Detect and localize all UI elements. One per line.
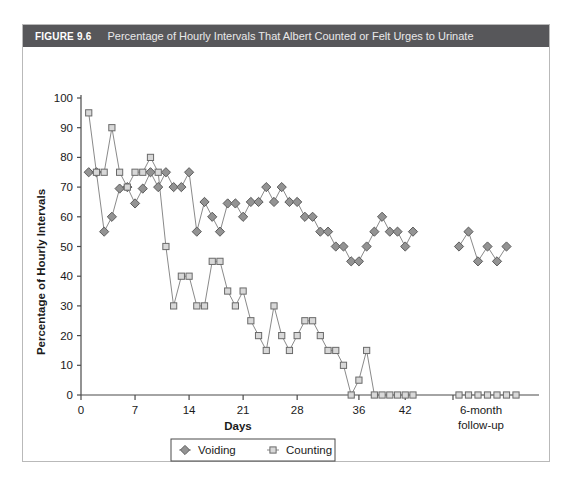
figure-caption-label: Percentage of Hourly Intervals That Albe… xyxy=(107,30,473,42)
counting-data-point xyxy=(270,447,276,453)
voiding-data-point xyxy=(393,227,402,236)
y-tick-label: 40 xyxy=(60,270,73,282)
counting-data-point xyxy=(302,318,308,324)
counting-data-point xyxy=(325,347,331,353)
figure-header-bar: FIGURE 9.6 Percentage of Hourly Interval… xyxy=(23,25,549,47)
y-tick-label: 90 xyxy=(60,122,73,134)
voiding-data-point xyxy=(370,227,379,236)
counting-data-point xyxy=(155,169,161,175)
voiding-data-point xyxy=(200,197,209,206)
counting-data-point xyxy=(201,303,207,309)
x-tick-label: 14 xyxy=(183,404,196,416)
x-tick-label: 7 xyxy=(132,404,138,416)
voiding-data-point xyxy=(138,184,147,193)
x-tick-label: 21 xyxy=(237,404,250,416)
counting-data-point xyxy=(263,347,269,353)
counting-data-point xyxy=(317,333,323,339)
voiding-data-point xyxy=(208,212,217,221)
x-tick-label: 36 xyxy=(353,404,366,416)
chart-legend: VoidingCounting xyxy=(171,439,335,461)
counting-data-point xyxy=(364,347,370,353)
y-tick-label: 30 xyxy=(60,300,73,312)
legend-label: Counting xyxy=(286,444,332,456)
counting-data-point xyxy=(402,392,408,398)
voiding-data-point xyxy=(107,212,116,221)
counting-data-point xyxy=(248,318,254,324)
x-axis-title: Days xyxy=(224,420,252,432)
counting-data-point xyxy=(410,392,416,398)
counting-data-point xyxy=(194,303,200,309)
counting-data-point xyxy=(163,243,169,249)
counting-data-point xyxy=(240,288,246,294)
counting-data-point xyxy=(86,110,92,116)
counting-data-point xyxy=(286,347,292,353)
counting-data-point xyxy=(356,377,362,383)
voiding-data-point xyxy=(239,212,248,221)
counting-data-point xyxy=(232,303,238,309)
voiding-data-point xyxy=(269,197,278,206)
counting-data-point xyxy=(209,258,215,264)
x-tick-label: 0 xyxy=(78,404,84,416)
y-tick-label: 100 xyxy=(54,92,73,104)
y-axis-title: Percentage of Hourly Intervals xyxy=(35,189,47,355)
y-tick-label: 70 xyxy=(60,181,73,193)
voiding-data-point xyxy=(231,199,240,208)
counting-data-point xyxy=(225,288,231,294)
voiding-data-point xyxy=(192,227,201,236)
voiding-data-point xyxy=(146,168,155,177)
voiding-data-point xyxy=(293,197,302,206)
counting-data-point xyxy=(271,303,277,309)
counting-data-point xyxy=(279,333,285,339)
counting-data-point xyxy=(294,333,300,339)
counting-data-point xyxy=(186,273,192,279)
voiding-data-point xyxy=(177,183,186,192)
line-chart-svg: Percentage of Hourly Intervals Days 0102… xyxy=(23,47,549,462)
y-tick-label: 0 xyxy=(67,389,73,401)
y-tick-label: 60 xyxy=(60,211,73,223)
counting-data-point xyxy=(117,169,123,175)
voiding-data-point xyxy=(262,183,271,192)
voiding-data-point xyxy=(154,183,163,192)
counting-data-point xyxy=(340,362,346,368)
counting-data-point xyxy=(132,169,138,175)
y-axis-ticks: 0102030405060708090100 xyxy=(54,92,81,401)
voiding-data-point xyxy=(277,183,286,192)
counting-data-point xyxy=(140,169,146,175)
voiding-data-point xyxy=(308,212,317,221)
voiding-data-point xyxy=(323,227,332,236)
counting-data-point xyxy=(494,392,500,398)
voiding-data-point xyxy=(130,199,139,208)
counting-data-point xyxy=(387,392,393,398)
counting-data-point xyxy=(503,392,509,398)
voiding-data-point xyxy=(184,168,193,177)
y-tick-label: 50 xyxy=(60,241,73,253)
x-tick-label: 42 xyxy=(399,404,412,416)
y-tick-label: 20 xyxy=(60,330,73,342)
y-tick-label: 10 xyxy=(60,359,73,371)
voiding-data-point xyxy=(354,257,363,266)
counting-data-point xyxy=(171,303,177,309)
counting-data-point xyxy=(475,392,481,398)
chart-plot-area: Percentage of Hourly Intervals Days 0102… xyxy=(23,47,549,462)
y-tick-label: 80 xyxy=(60,151,73,163)
voiding-data-point xyxy=(408,227,417,236)
counting-data-point xyxy=(217,258,223,264)
counting-data-point xyxy=(456,392,462,398)
x-tick-label: 28 xyxy=(291,404,304,416)
counting-data-point xyxy=(255,333,261,339)
counting-data-point xyxy=(93,169,99,175)
figure-container: FIGURE 9.6 Percentage of Hourly Interval… xyxy=(22,24,550,462)
counting-data-point xyxy=(178,273,184,279)
voiding-data-point xyxy=(464,227,473,236)
followup-axis-label: 6-monthfollow-up xyxy=(458,404,504,431)
voiding-data-point xyxy=(473,257,482,266)
legend-label: Voiding xyxy=(198,444,236,456)
counting-data-point xyxy=(348,392,354,398)
voiding-data-point xyxy=(339,242,348,251)
counting-data-point xyxy=(310,318,316,324)
counting-data-point xyxy=(371,392,377,398)
voiding-data-point xyxy=(401,242,410,251)
voiding-data-point xyxy=(483,242,492,251)
followup-label-line: follow-up xyxy=(458,419,504,431)
voiding-data-point xyxy=(115,184,124,193)
